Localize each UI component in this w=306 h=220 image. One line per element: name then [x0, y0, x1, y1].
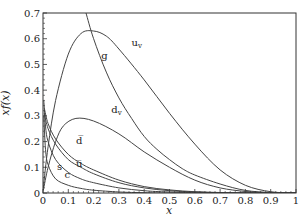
x-tick-label: 1: [293, 195, 299, 206]
curve-labels: uvgdvd̅u̅sc: [57, 37, 142, 179]
y-tick-label: 0.4: [24, 85, 40, 96]
curve-ubar: [44, 113, 296, 193]
x-axis-title: x: [166, 204, 173, 217]
y-tick-label: 0: [34, 188, 40, 199]
x-tick-label: 0.7: [212, 195, 228, 206]
y-tick-label: 0.3: [24, 110, 40, 121]
pdf-line-chart: 00.10.20.30.40.50.60.70.80.9100.10.20.30…: [0, 0, 306, 220]
x-tick-label: 0.8: [237, 195, 253, 206]
curve-label: d̅: [76, 135, 83, 146]
curve-g: [86, 13, 296, 193]
curve-label: uv: [132, 37, 142, 50]
y-tick-label: 0.6: [24, 33, 40, 44]
x-tick-label: 0.2: [86, 195, 102, 206]
x-tick-label: 0.6: [187, 195, 203, 206]
y-tick-label: 0.1: [24, 162, 40, 173]
y-tick-label: 0.5: [24, 59, 40, 70]
x-tick-label: 0.4: [136, 195, 152, 206]
x-tick-label: 0.9: [263, 195, 279, 206]
curve-label: s: [57, 161, 62, 172]
y-tick-label: 0.7: [24, 8, 40, 19]
curve-d_v: [43, 118, 296, 193]
curve-label: u̅: [76, 158, 83, 169]
curve-label: dv: [111, 104, 121, 117]
curve-label: g: [101, 50, 108, 61]
y-tick-label: 0.2: [24, 136, 40, 147]
curve-c: [44, 116, 296, 193]
y-axis-title: xf(x): [0, 90, 12, 115]
x-tick-label: 0.1: [60, 195, 76, 206]
curve-label: c: [65, 169, 71, 180]
x-tick-label: 0.3: [111, 195, 127, 206]
x-tick-label: 0: [40, 195, 46, 206]
curve-dbar: [44, 108, 296, 193]
